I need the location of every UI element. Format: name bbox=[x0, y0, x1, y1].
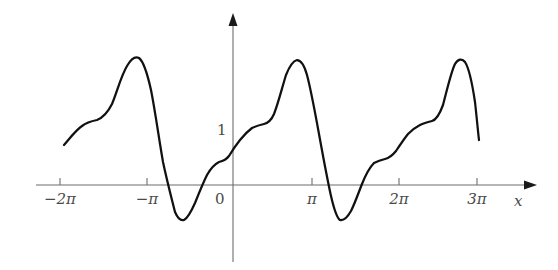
x-axis-arrow-icon bbox=[524, 181, 537, 190]
y-unit-label-1: 1 bbox=[217, 123, 227, 138]
function-curve bbox=[64, 57, 479, 220]
x-axis-label: x bbox=[514, 194, 522, 209]
x-axis-ticks bbox=[60, 178, 477, 185]
tick-label-2pi: 2π bbox=[389, 192, 408, 207]
tick-label-neg-2pi: −2π bbox=[44, 192, 76, 207]
origin-label: 0 bbox=[215, 192, 225, 207]
tick-label-pi: π bbox=[307, 192, 317, 207]
tick-label-3pi: 3π bbox=[467, 192, 486, 207]
function-plot-figure: −2π −π π 2π 3π 0 1 x bbox=[0, 0, 558, 270]
plot-canvas bbox=[0, 0, 558, 270]
y-axis-arrow-icon bbox=[229, 13, 238, 26]
tick-label-neg-pi: −π bbox=[136, 192, 158, 207]
